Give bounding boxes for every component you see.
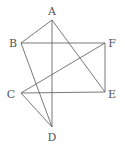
point-label-a: A bbox=[47, 5, 57, 18]
labels-group: ABFCED bbox=[7, 5, 116, 144]
point-label-f: F bbox=[108, 37, 116, 50]
geometry-diagram: ABFCED bbox=[0, 0, 125, 151]
segment-ce bbox=[21, 92, 105, 93]
segment-cd bbox=[21, 93, 52, 127]
point-label-c: C bbox=[7, 88, 15, 101]
point-label-d: D bbox=[48, 131, 57, 144]
segment-ab bbox=[21, 20, 52, 43]
point-label-b: B bbox=[9, 37, 17, 50]
segment-ae bbox=[52, 20, 105, 92]
point-label-e: E bbox=[108, 88, 116, 101]
edges-group bbox=[21, 20, 105, 127]
segment-bd bbox=[21, 43, 52, 127]
segment-cf bbox=[21, 43, 105, 93]
